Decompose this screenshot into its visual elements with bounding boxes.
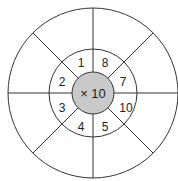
segment-number: 1	[78, 56, 85, 70]
segment-number: 10	[119, 101, 133, 115]
segment-number: 3	[59, 101, 66, 115]
spoke-top-left	[33, 33, 78, 78]
segment-number: 4	[78, 120, 85, 134]
segment-number: 2	[59, 75, 66, 89]
center-label: × 10	[80, 86, 106, 101]
spoke-top-right	[108, 33, 153, 78]
segment-number: 5	[102, 120, 109, 134]
times-ten-wheel-diagram: × 10 1 8 7 10 5 4 2 3	[0, 0, 178, 181]
segment-number: 7	[120, 75, 127, 89]
segment-number: 8	[102, 56, 109, 70]
spoke-bottom-left	[33, 108, 78, 153]
